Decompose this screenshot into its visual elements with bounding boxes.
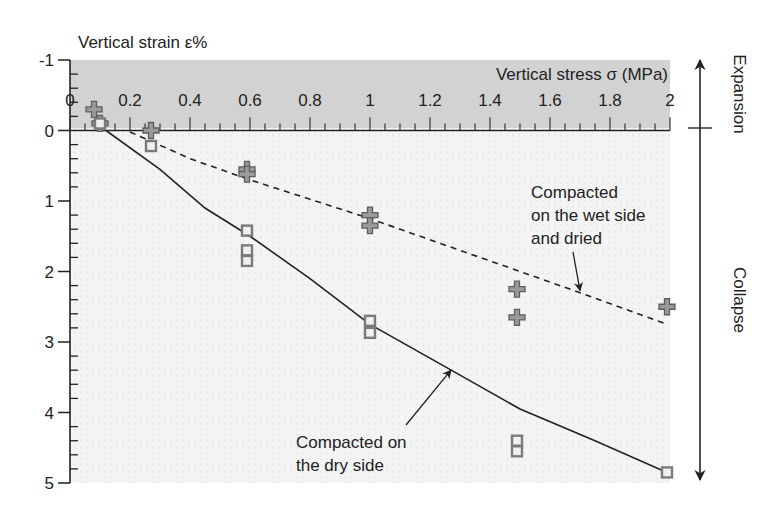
collapse-label: Collapse: [730, 267, 749, 333]
square-marker: [662, 467, 672, 477]
x-tick-label: 2: [665, 91, 674, 110]
square-marker: [95, 118, 105, 128]
square-marker: [242, 226, 252, 236]
x-axis-title: Vertical stress σ (MPa): [496, 65, 668, 84]
wet-side-annotation-text: Compacted: [531, 183, 618, 202]
x-tick-label: 0.6: [238, 91, 262, 110]
expansion-label: Expansion: [730, 54, 749, 133]
dry-side-annotation-text: Compacted on: [296, 433, 407, 452]
y-tick-label: 3: [45, 333, 54, 352]
x-tick-label: 1.4: [478, 91, 502, 110]
y-tick-label: 5: [45, 474, 54, 493]
y-axis-title: Vertical strain ε%: [78, 33, 207, 52]
x-tick-label: 0.2: [118, 91, 142, 110]
square-marker: [146, 141, 156, 151]
square-marker: [242, 256, 252, 266]
wet-side-annotation-text: and dried: [531, 229, 602, 248]
y-tick-label: 2: [45, 263, 54, 282]
strain-stress-chart: -1012345 00.20.40.60.811.21.41.61.82 Ver…: [0, 0, 765, 510]
x-tick-label: 0.4: [178, 91, 202, 110]
y-tick-label: 4: [45, 404, 54, 423]
x-tick-label: 0.8: [298, 91, 322, 110]
wet-side-annotation-text: on the wet side: [531, 206, 645, 225]
x-tick-label: 1.8: [598, 91, 622, 110]
square-marker: [365, 316, 375, 326]
square-marker: [242, 245, 252, 255]
x-tick-label: 1.2: [418, 91, 442, 110]
dry-side-annotation-text: the dry side: [296, 456, 384, 475]
plot-area: [70, 128, 670, 483]
square-marker: [512, 446, 522, 456]
y-tick-label: 0: [45, 122, 54, 141]
square-marker: [365, 328, 375, 338]
expansion-collapse-indicator: Expansion Collapse: [688, 54, 749, 480]
y-tick-label: -1: [39, 51, 54, 70]
square-marker: [512, 436, 522, 446]
x-tick-label: 1.6: [538, 91, 562, 110]
y-tick-label: 1: [45, 192, 54, 211]
x-tick-label: 0: [65, 91, 74, 110]
x-tick-label: 1: [365, 91, 374, 110]
